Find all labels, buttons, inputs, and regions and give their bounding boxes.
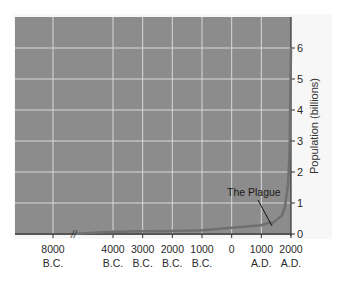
x-tick-label: 0 xyxy=(229,243,235,255)
x-tick-label: 1000 xyxy=(250,243,274,255)
y-tick-label: 4 xyxy=(297,104,303,116)
x-tick-label: B.C. xyxy=(43,257,63,269)
y-tick-label: 3 xyxy=(297,135,303,147)
x-axis-ticks: 8000B.C.4000B.C.3000B.C.2000B.C.1000B.C.… xyxy=(41,234,303,269)
annotation-the-plague: The Plague xyxy=(227,186,281,198)
x-tick-label: A.D. xyxy=(251,257,271,269)
x-tick-label: 3000 xyxy=(131,243,155,255)
plot-area xyxy=(15,17,291,235)
y-tick-label: 1 xyxy=(297,197,303,209)
x-tick-label: 1000 xyxy=(190,243,214,255)
y-tick-label: 6 xyxy=(297,42,303,54)
y-tick-label: 0 xyxy=(297,228,303,240)
x-tick-label: B.C. xyxy=(132,257,152,269)
population-chart: 0123456 8000B.C.4000B.C.3000B.C.2000B.C.… xyxy=(0,0,345,286)
x-tick-label: 4000 xyxy=(101,243,125,255)
x-tick-label: A.D. xyxy=(281,257,301,269)
x-tick-label: B.C. xyxy=(162,257,182,269)
x-tick-label: B.C. xyxy=(103,257,123,269)
x-tick-label: B.C. xyxy=(192,257,212,269)
x-tick-label: 2000 xyxy=(279,243,303,255)
y-tick-label: 5 xyxy=(297,73,303,85)
y-tick-label: 2 xyxy=(297,166,303,178)
x-tick-label: 8000 xyxy=(41,243,65,255)
y-axis-label: Population (billions) xyxy=(308,78,320,174)
x-tick-label: 2000 xyxy=(161,243,185,255)
